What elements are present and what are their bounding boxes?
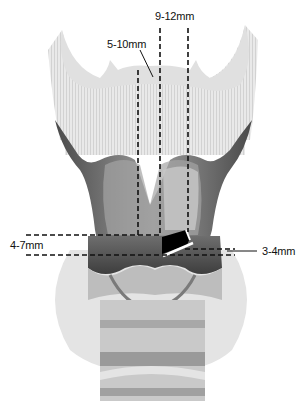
label-4-7mm: 4-7mm: [10, 239, 43, 251]
trachea: [100, 300, 205, 401]
label-3-4mm: 3-4mm: [262, 245, 295, 257]
larynx-diagram: 9-12mm 5-10mm 4-7mm 3-4mm: [0, 0, 305, 401]
label-5-10mm: 5-10mm: [107, 38, 146, 50]
hyoid-region: [48, 25, 258, 155]
label-9-12mm: 9-12mm: [155, 10, 194, 22]
anatomy-illustration: [0, 0, 305, 401]
